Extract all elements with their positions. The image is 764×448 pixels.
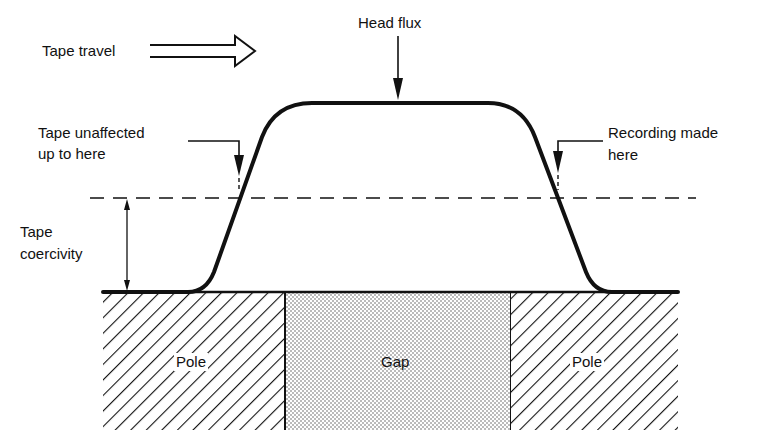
recording-made-label-line1: Recording made	[608, 124, 718, 142]
head-flux-arrow-icon	[393, 36, 403, 100]
tape-unaffected-arrow-icon	[188, 141, 244, 190]
tape-coercivity-label-line2: coercivity	[20, 245, 83, 263]
right-pole-label: Pole	[570, 353, 604, 371]
recording-made-arrow-icon	[553, 141, 603, 190]
coercivity-dimension-arrow-icon	[124, 199, 130, 291]
recording-made-label-line2: here	[608, 146, 638, 164]
gap-label: Gap	[381, 353, 409, 371]
head-flux-label: Head flux	[358, 14, 421, 32]
tape-travel-arrow-icon	[150, 36, 255, 66]
tape-unaffected-label-line1: Tape unaffected	[38, 124, 144, 142]
tape-coercivity-label-line1: Tape	[20, 223, 53, 241]
tape-unaffected-label-line2: up to here	[38, 145, 106, 163]
recording-head-diagram	[0, 0, 764, 448]
tape-travel-label: Tape travel	[42, 42, 115, 60]
left-pole-label: Pole	[174, 353, 208, 371]
